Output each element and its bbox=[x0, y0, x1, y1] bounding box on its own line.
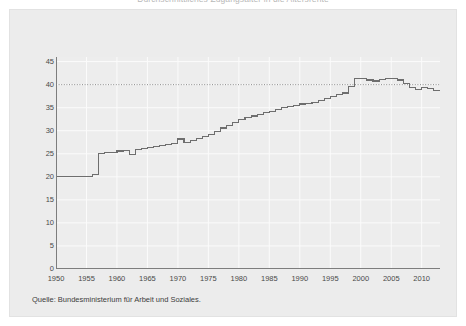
chart-title-text: Durchschnittliches Zugangsalter in die A… bbox=[0, 0, 466, 4]
chart-title-clipped: Durchschnittliches Zugangsalter in die A… bbox=[0, 0, 466, 9]
plot-svg bbox=[56, 57, 440, 269]
x-tick-label: 2010 bbox=[402, 275, 442, 283]
chart-panel: 051015202530354045 195019551960196519701… bbox=[9, 9, 457, 317]
source-note: Quelle: Bundesministerium für Arbeit und… bbox=[32, 295, 201, 304]
chart-screenshot: Durchschnittliches Zugangsalter in die A… bbox=[0, 0, 466, 326]
plot-area bbox=[56, 57, 440, 269]
data-line bbox=[56, 78, 440, 177]
